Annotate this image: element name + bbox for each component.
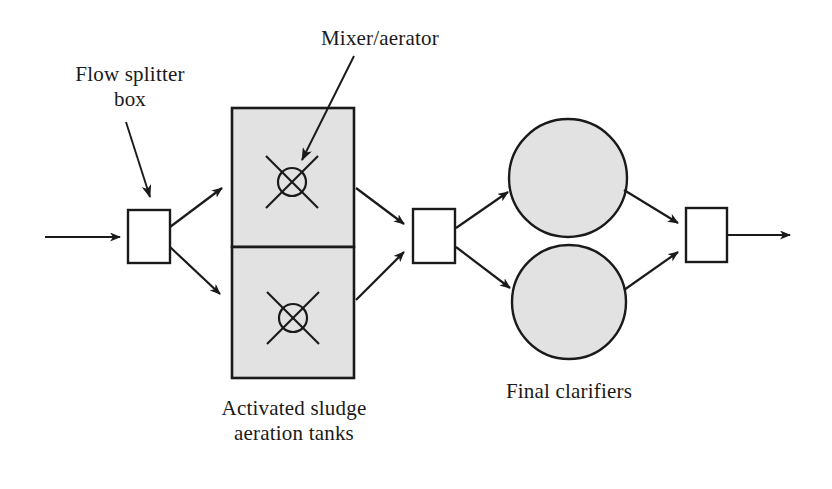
flow-splitter-box-label: Flow splitter box xyxy=(40,62,220,112)
tank-lower-to-midbox xyxy=(356,252,404,300)
final-clarifier-lower xyxy=(512,245,626,359)
final-clarifiers-label: Final clarifiers xyxy=(478,379,660,404)
midbox-to-clarifier-upper xyxy=(456,192,508,228)
clarifier-upper-to-outbox xyxy=(624,190,678,223)
effluent-collection-box xyxy=(686,208,727,262)
process-flow-diagram: Flow splitter box Mixer/aerator Activate… xyxy=(0,0,832,489)
flow-splitter-callout-arrow xyxy=(126,122,150,197)
midbox-to-clarifier-lower xyxy=(456,247,510,288)
flow-splitter-box xyxy=(128,210,170,263)
splitter-to-tank-lower xyxy=(170,247,220,294)
mixer-aerator-label: Mixer/aerator xyxy=(300,26,460,51)
aeration-tanks-label: Activated sludge aeration tanks xyxy=(193,396,395,446)
splitter-to-tank-upper xyxy=(170,188,222,227)
clarifier-lower-to-outbox xyxy=(624,252,678,290)
tank-upper-to-midbox xyxy=(356,188,404,224)
intermediate-splitter-box xyxy=(413,209,455,263)
final-clarifier-upper xyxy=(509,119,627,237)
